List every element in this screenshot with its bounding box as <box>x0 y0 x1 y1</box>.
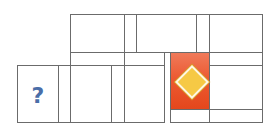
tile-top-3[interactable] <box>209 14 263 53</box>
mystery-cell[interactable]: ? <box>17 65 59 123</box>
tile-top-1[interactable] <box>70 14 125 53</box>
diamond-icon <box>175 65 209 99</box>
question-mark-icon: ? <box>32 83 45 108</box>
grid-line <box>170 122 263 123</box>
tile-bottom-2[interactable] <box>124 65 165 123</box>
puzzle-board: ? <box>0 0 278 129</box>
tile-top-2[interactable] <box>136 14 197 53</box>
tile-right-1[interactable] <box>209 65 263 110</box>
highlighted-tile[interactable] <box>170 52 210 110</box>
tile-bottom-1[interactable] <box>70 65 112 123</box>
